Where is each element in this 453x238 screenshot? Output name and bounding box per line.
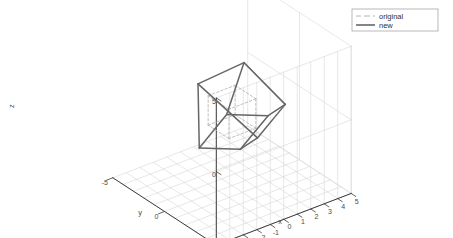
x-tick-label: 0: [287, 223, 291, 230]
x-tick-label: 4: [341, 203, 345, 210]
x-tick-mark: [270, 225, 275, 228]
series-edge: [198, 63, 244, 84]
series-edge: [208, 125, 229, 138]
z-axis-title: z: [7, 104, 16, 108]
series-edge: [198, 84, 199, 148]
x-tick-mark: [257, 230, 262, 233]
floor-grid-line-y: [185, 173, 320, 225]
series-edge: [199, 148, 240, 149]
x-tick-mark: [297, 214, 302, 217]
figure-3d-plot: -5-4-3-2-101234550-550-5 x y z original …: [0, 0, 453, 238]
x-tick-mark: [324, 204, 329, 207]
x-tick-label: -2: [259, 234, 265, 238]
series-edge: [257, 104, 285, 138]
z-tick-mark: [216, 172, 221, 175]
floor-grid-xy: [113, 126, 351, 238]
floor-grid-line-x: [194, 147, 297, 214]
x-tick-label: 3: [328, 208, 332, 215]
x-tick-mark: [243, 235, 248, 238]
legend-label-original: original: [379, 12, 404, 21]
y-tick-label: 0: [155, 213, 159, 220]
series-edge: [244, 63, 285, 105]
series-edge: [208, 85, 235, 95]
series-edge: [235, 85, 256, 98]
floor-grid-line-x: [126, 173, 229, 238]
x-tick-mark: [351, 193, 356, 196]
x-tick-mark: [311, 209, 316, 212]
x-axis-title: x: [278, 217, 282, 226]
x-tick-mark: [338, 199, 343, 202]
legend-label-new: new: [379, 21, 393, 30]
floor-grid-line-y: [165, 160, 300, 212]
y-tick-mark: [159, 211, 165, 213]
y-axis-title: y: [138, 208, 142, 217]
x-tick-label: 2: [314, 213, 318, 220]
floor-grid-line-x: [234, 131, 337, 198]
x-tick-mark: [284, 219, 289, 222]
side-wall-yz: [248, 0, 351, 193]
x-tick-label: 1: [301, 218, 305, 225]
floor-grid-line-x: [207, 142, 310, 209]
x-tick-label: -1: [273, 229, 279, 236]
series-edge: [229, 99, 256, 109]
z-tick-label: 0: [212, 171, 216, 178]
floor-grid-line-x: [221, 136, 324, 203]
series-edge: [199, 115, 226, 148]
plot-canvas: -5-4-3-2-101234550-550-5 x y z original …: [0, 0, 453, 238]
y-tick-label: -5: [102, 179, 108, 186]
legend[interactable]: original new: [352, 9, 438, 31]
x-tick-label: 5: [355, 198, 359, 205]
floor-grid-line-y: [175, 166, 310, 218]
